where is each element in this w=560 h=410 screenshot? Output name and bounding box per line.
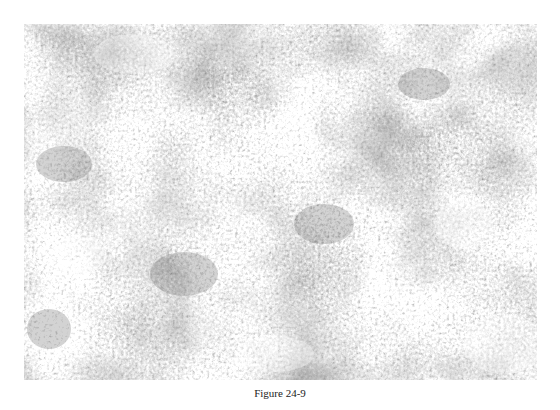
micrograph-texture: [24, 24, 537, 380]
figure-caption: Figure 24-9: [0, 387, 560, 399]
figure-micrograph-image: [24, 24, 537, 380]
